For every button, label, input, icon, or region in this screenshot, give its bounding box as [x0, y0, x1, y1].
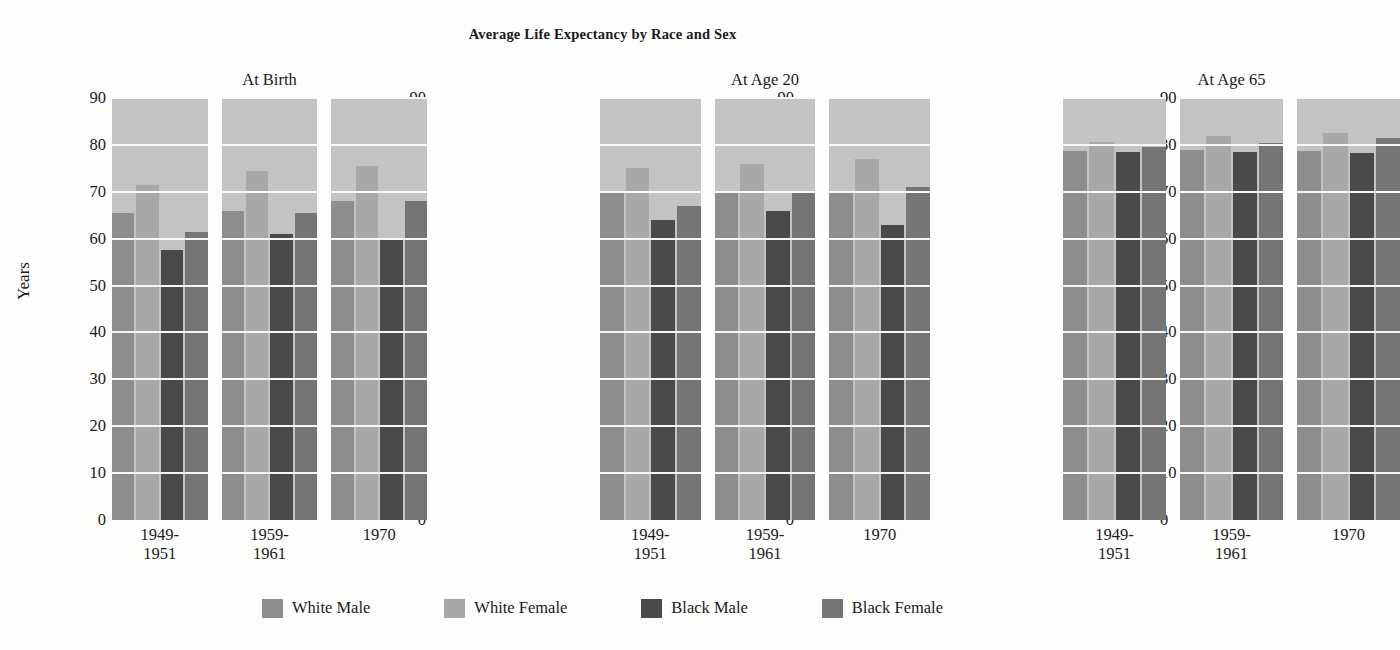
bar: [1323, 98, 1347, 520]
bar-fill: [1323, 133, 1347, 520]
plot-area: 1949- 19511959- 19611970: [1063, 98, 1400, 520]
panel-title: At Birth: [112, 70, 427, 90]
y-axis-tick-label: 80: [90, 137, 107, 154]
legend-item-white-male: White Male: [262, 598, 370, 618]
bar-fill: [222, 211, 244, 520]
bar: [1206, 98, 1230, 520]
legend-item-white-female: White Female: [444, 598, 567, 618]
bar: [1259, 98, 1283, 520]
bar-fill: [792, 192, 816, 520]
bar-fill: [1350, 153, 1374, 520]
bar-group: 1949- 1951: [1063, 98, 1166, 520]
y-axis-tick-label: 50: [90, 277, 107, 294]
x-axis-group-label: 1949- 1951: [1063, 526, 1166, 564]
bar-fill: [1376, 138, 1400, 520]
y-axis-tick-label: 10: [90, 465, 107, 482]
bar-group: 1949- 1951: [600, 98, 701, 520]
bar: [792, 98, 816, 520]
bar: [829, 98, 853, 520]
bar-group: 1970: [1297, 98, 1400, 520]
bar: [331, 98, 353, 520]
legend-swatch-icon: [262, 599, 283, 618]
bar-fill: [740, 164, 764, 520]
bar-fill: [331, 201, 353, 520]
bar-fill: [855, 159, 879, 520]
bar-fill: [246, 171, 268, 520]
bar-fill: [1233, 152, 1257, 520]
bar-fill: [677, 206, 701, 520]
legend-item-black-male: Black Male: [641, 598, 748, 618]
bar-fill: [295, 213, 317, 520]
bar: [1233, 98, 1257, 520]
bar: [112, 98, 134, 520]
bar-fill: [1297, 151, 1321, 520]
x-axis-group-label: 1949- 1951: [600, 526, 701, 564]
bar-fill: [356, 166, 378, 520]
bar: [600, 98, 624, 520]
legend-swatch-icon: [822, 599, 843, 618]
y-axis-ticks-1: 9080706050403020100: [72, 98, 106, 520]
x-axis-group-label: 1970: [1297, 526, 1400, 545]
bar: [715, 98, 739, 520]
bar-group: 1970: [829, 98, 930, 520]
bar: [405, 98, 427, 520]
bar-fill: [906, 187, 930, 520]
bar: [740, 98, 764, 520]
bar: [246, 98, 268, 520]
bar-fill: [161, 250, 183, 520]
legend-label: Black Male: [671, 598, 748, 618]
bar: [1089, 98, 1113, 520]
y-axis-title: Years: [14, 262, 34, 300]
plot-area: 1949- 19511959- 19611970: [112, 98, 427, 520]
bar-fill: [1116, 152, 1140, 520]
bar-fill: [1089, 142, 1113, 520]
bar-fill: [1259, 143, 1283, 520]
bar-fill: [1206, 136, 1230, 520]
bar-group: 1959- 1961: [715, 98, 816, 520]
bar-fill: [626, 168, 650, 520]
bar: [677, 98, 701, 520]
bar: [881, 98, 905, 520]
bar-fill: [270, 234, 292, 520]
x-axis-group-label: 1970: [331, 526, 427, 545]
bar: [136, 98, 158, 520]
bar-fill: [766, 211, 790, 520]
bar-fill: [651, 220, 675, 520]
x-axis-group-label: 1970: [829, 526, 930, 545]
bar-fill: [1063, 151, 1087, 520]
bar-fill: [405, 201, 427, 520]
bar-fill: [380, 239, 402, 520]
bar: [1297, 98, 1321, 520]
y-axis-tick-label: 90: [90, 90, 107, 107]
chart-legend: White MaleWhite FemaleBlack MaleBlack Fe…: [0, 598, 1205, 618]
bar-group: 1970: [331, 98, 427, 520]
legend-swatch-icon: [641, 599, 662, 618]
bar: [270, 98, 292, 520]
bar: [222, 98, 244, 520]
bar-group: 1959- 1961: [1180, 98, 1283, 520]
bar-fill: [600, 192, 624, 520]
bar: [1376, 98, 1400, 520]
bar-fill: [185, 232, 207, 520]
legend-label: White Female: [474, 598, 567, 618]
legend-label: White Male: [292, 598, 370, 618]
x-axis-group-label: 1949- 1951: [112, 526, 208, 564]
bar: [1116, 98, 1140, 520]
y-axis-tick-label: 60: [90, 230, 107, 247]
bar-fill: [1180, 150, 1204, 520]
panel-title: At Age 65: [1063, 70, 1400, 90]
plot-area: 1949- 19511959- 19611970: [600, 98, 930, 520]
y-axis-tick-label: 40: [90, 324, 107, 341]
bar: [1350, 98, 1374, 520]
bar-fill: [829, 192, 853, 520]
bar-group: 1959- 1961: [222, 98, 318, 520]
bar-fill: [112, 213, 134, 520]
bar: [626, 98, 650, 520]
bar: [356, 98, 378, 520]
legend-item-black-female: Black Female: [822, 598, 943, 618]
x-axis-group-label: 1959- 1961: [1180, 526, 1283, 564]
legend-label: Black Female: [852, 598, 943, 618]
legend-swatch-icon: [444, 599, 465, 618]
bar: [766, 98, 790, 520]
bar: [295, 98, 317, 520]
